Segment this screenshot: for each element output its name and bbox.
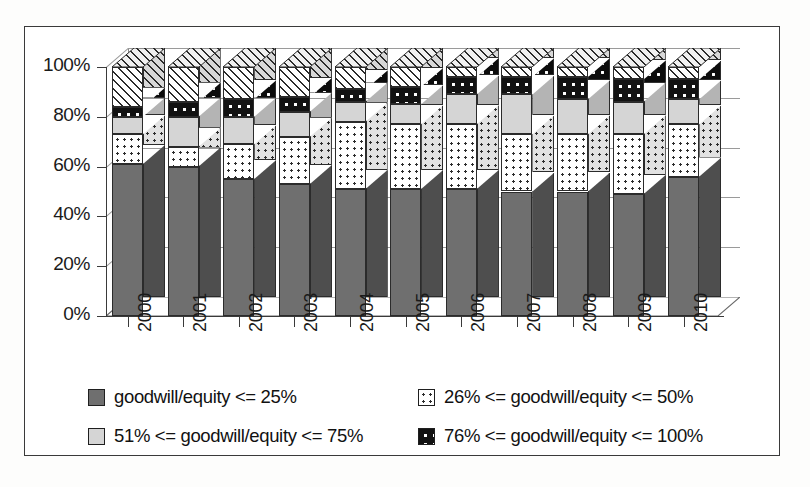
dotted-swatch: [418, 389, 435, 406]
bar-segment[interactable]: [168, 102, 199, 117]
bar-segment[interactable]: [112, 134, 143, 164]
y-axis-label: 20%: [0, 253, 90, 275]
bar-segment[interactable]: [168, 67, 199, 102]
bar-segment[interactable]: [501, 94, 532, 134]
bar-2002[interactable]: [223, 48, 254, 316]
bar-segment-side: [532, 173, 554, 298]
bar-segment-side: [310, 165, 332, 297]
legend-label: 26% <= goodwill/equity <= 50%: [444, 386, 693, 408]
x-axis-label-2005: 2005: [413, 293, 434, 332]
x-axis-tick: [684, 316, 685, 327]
bar-segment[interactable]: [613, 134, 644, 194]
x-axis-label-2003: 2003: [301, 293, 322, 332]
bar-segment[interactable]: [557, 134, 588, 191]
bar-segment[interactable]: [446, 94, 477, 124]
bar-2001[interactable]: [168, 48, 199, 316]
bar-segment[interactable]: [335, 122, 366, 189]
bar-segment-side: [199, 148, 221, 297]
legend-label: 51% <= goodwill/equity <= 75%: [114, 425, 363, 447]
bar-segment[interactable]: [279, 112, 310, 137]
bar-segment[interactable]: [446, 67, 477, 77]
light-gray-swatch: [88, 428, 105, 445]
x-axis-label-2004: 2004: [357, 293, 378, 332]
bar-segment-side: [366, 170, 388, 297]
bar-2010[interactable]: [668, 48, 699, 316]
bar-segment[interactable]: [279, 97, 310, 112]
x-axis-label-2006: 2006: [468, 293, 489, 332]
bar-2006[interactable]: [446, 48, 477, 316]
dark-gray-swatch: [88, 389, 105, 406]
bar-segment-side: [254, 160, 276, 297]
bar-segment[interactable]: [668, 99, 699, 124]
bar-segment[interactable]: [613, 102, 644, 134]
bar-segment[interactable]: [390, 67, 421, 87]
bar-segment[interactable]: [335, 89, 366, 101]
x-axis-tick: [406, 316, 407, 327]
bar-segment[interactable]: [223, 117, 254, 144]
bar-segment[interactable]: [557, 77, 588, 99]
bar-segment[interactable]: [390, 87, 421, 104]
bar-segment[interactable]: [390, 104, 421, 124]
bar-segment[interactable]: [223, 144, 254, 179]
bar-segment[interactable]: [557, 67, 588, 77]
bar-segment[interactable]: [668, 79, 699, 99]
x-axis-tick: [239, 316, 240, 327]
bar-segment[interactable]: [668, 67, 699, 79]
bar-segment[interactable]: [501, 67, 532, 77]
bar-segment[interactable]: [446, 124, 477, 189]
bar-segment[interactable]: [501, 77, 532, 94]
bar-segment[interactable]: [446, 77, 477, 94]
y-axis-tick: [97, 266, 106, 267]
y-axis-tick: [97, 167, 106, 168]
chart-legend: goodwill/equity <= 25%26% <= goodwill/eq…: [88, 386, 738, 447]
x-axis-tick: [461, 316, 462, 327]
black-dotted-swatch: [418, 428, 435, 445]
bar-2009[interactable]: [613, 48, 644, 316]
x-axis-tick: [573, 316, 574, 327]
y-axis-tick: [97, 117, 106, 118]
legend-item[interactable]: 26% <= goodwill/equity <= 50%: [418, 386, 738, 408]
bar-segment[interactable]: [279, 137, 310, 184]
bar-segment[interactable]: [501, 134, 532, 191]
bar-segment-side: [421, 170, 443, 297]
bar-segment[interactable]: [223, 67, 254, 99]
bar-2008[interactable]: [557, 48, 588, 316]
x-axis-tick: [183, 316, 184, 327]
bar-segment[interactable]: [613, 79, 644, 101]
bar-segment[interactable]: [112, 117, 143, 134]
bar-segment[interactable]: [112, 67, 143, 107]
bar-segment[interactable]: [279, 67, 310, 97]
legend-label: goodwill/equity <= 25%: [114, 386, 297, 408]
bar-segment[interactable]: [335, 102, 366, 122]
x-axis-tick: [294, 316, 295, 327]
bar-segment[interactable]: [668, 124, 699, 176]
bar-segment[interactable]: [112, 107, 143, 117]
bar-segment[interactable]: [168, 147, 199, 167]
bar-2007[interactable]: [501, 48, 532, 316]
bar-2004[interactable]: [335, 48, 366, 316]
bar-segment-side: [477, 170, 499, 297]
y-axis-label: 0%: [0, 303, 90, 325]
y-axis-tick: [97, 216, 106, 217]
legend-item[interactable]: 76% <= goodwill/equity <= 100%: [418, 425, 738, 447]
bar-2005[interactable]: [390, 48, 421, 316]
x-axis-label-2007: 2007: [524, 293, 545, 332]
bar-segment[interactable]: [223, 99, 254, 116]
bar-segment[interactable]: [335, 67, 366, 89]
bar-2000[interactable]: [112, 48, 143, 316]
y-axis-tick: [97, 67, 106, 68]
bar-2003[interactable]: [279, 48, 310, 316]
plot-area: [106, 48, 740, 316]
y-axis-tick: [97, 316, 106, 317]
bar-segment[interactable]: [390, 124, 421, 189]
x-axis-label-2010: 2010: [691, 293, 712, 332]
x-axis-label-2008: 2008: [580, 293, 601, 332]
y-axis-label: 60%: [0, 154, 90, 176]
bar-segment[interactable]: [168, 117, 199, 147]
legend-item[interactable]: goodwill/equity <= 25%: [88, 386, 418, 408]
legend-label: 76% <= goodwill/equity <= 100%: [444, 425, 703, 447]
bar-segment-side: [699, 158, 721, 297]
bar-segment[interactable]: [613, 67, 644, 79]
bar-segment[interactable]: [557, 99, 588, 134]
legend-item[interactable]: 51% <= goodwill/equity <= 75%: [88, 425, 418, 447]
